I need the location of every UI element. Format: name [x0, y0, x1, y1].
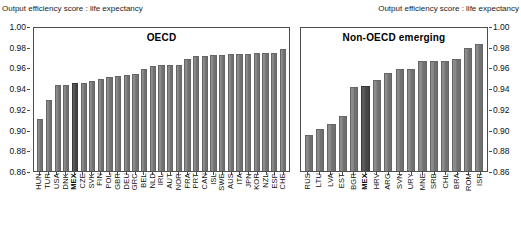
- y-tick-label: 0.94: [9, 85, 26, 93]
- x-axis-label-svn: SVN: [396, 173, 404, 189]
- bar-slot: [314, 28, 325, 171]
- bar-deu: [124, 75, 130, 171]
- y-tick-label: 0.90: [9, 127, 26, 135]
- panel-title-oecd: OECD: [34, 32, 289, 43]
- bar-est: [339, 116, 347, 171]
- bar-srb: [430, 61, 438, 171]
- bar-slot: [166, 28, 175, 171]
- x-axis-label-pol: POL: [105, 173, 113, 189]
- x-axis-label-arg: ARG: [384, 173, 392, 190]
- x-label-slot: CHL: [440, 173, 452, 233]
- x-axis-label-nor: NOR: [175, 173, 183, 190]
- x-axis-label-aus: AUS: [227, 173, 235, 189]
- x-axis-label-rom: ROM: [465, 173, 473, 191]
- x-label-slot: RUS: [302, 173, 314, 233]
- bar-hrv: [373, 80, 381, 171]
- y-tick-label: 0.90: [493, 127, 510, 135]
- x-label-slot: ROM: [463, 173, 475, 233]
- bar-ltu: [316, 129, 324, 172]
- x-label-slot: URY: [406, 173, 418, 233]
- x-axis-label-srb: SRB: [430, 173, 438, 189]
- bar-rus: [305, 135, 313, 171]
- x-label-slot: BGR: [348, 173, 360, 233]
- bar-slot: [88, 28, 97, 171]
- bar-slot: [417, 28, 428, 171]
- x-label-slot: CHE: [279, 173, 288, 233]
- x-label-slot: EST: [337, 173, 349, 233]
- y-tick-mark: [27, 131, 30, 132]
- y-tick-label: 0.94: [493, 85, 510, 93]
- bar-slot: [45, 28, 54, 171]
- bar-kor: [254, 53, 260, 171]
- y-tick-label: 0.88: [493, 147, 510, 155]
- x-label-slot: SRB: [429, 173, 441, 233]
- bar-esp: [271, 53, 277, 171]
- bar-lva: [327, 124, 335, 171]
- y-tick-label: 0.92: [9, 106, 26, 114]
- x-label-slot: ISR: [475, 173, 487, 233]
- bar-group-oecd: [34, 28, 289, 171]
- bar-slot: [183, 28, 192, 171]
- bar-che: [280, 49, 286, 171]
- bar-slot: [157, 28, 166, 171]
- x-axis-label-usa: USA: [53, 173, 61, 189]
- x-axis-label-rus: RUS: [304, 173, 312, 189]
- bar-hun: [37, 119, 43, 171]
- y-tick-mark: [27, 27, 30, 28]
- y-tick-label: 0.92: [493, 106, 510, 114]
- bar-svn: [396, 69, 404, 172]
- bar-mne: [418, 61, 426, 171]
- right-axis-title: Output efficiency score : life expectanc…: [378, 4, 519, 14]
- bar-slot: [261, 28, 270, 171]
- x-label-slot: GBR: [113, 173, 122, 233]
- bar-slot: [278, 28, 287, 171]
- bar-slot: [405, 28, 416, 171]
- y-tick-mark: [27, 172, 30, 173]
- bar-slot: [209, 28, 218, 171]
- y-tick-mark: [489, 89, 492, 90]
- y-tick-mark: [489, 151, 492, 152]
- bar-bel: [141, 69, 147, 172]
- y-tick-mark: [489, 131, 492, 132]
- bar-irl: [158, 65, 164, 171]
- x-axis-label-che: CHE: [279, 173, 287, 189]
- bar-slot: [235, 28, 244, 171]
- x-label-slot: NOR: [175, 173, 184, 233]
- bar-prt: [193, 56, 199, 171]
- bar-slot: [192, 28, 201, 171]
- bar-rom: [464, 48, 472, 171]
- bar-dnk: [63, 85, 69, 171]
- panel-oecd: OECD HUNTURUSADNKMEXCZESVKFINPOLGBRDEUGR…: [33, 27, 290, 172]
- bar-fra: [184, 59, 190, 171]
- y-tick-label: 0.98: [493, 44, 510, 52]
- x-axis-label-cze: CZE: [79, 173, 87, 189]
- bar-slot: [428, 28, 439, 171]
- x-axis-label-can: CAN: [201, 173, 209, 189]
- bar-fin: [98, 79, 104, 171]
- bar-bra: [452, 59, 460, 171]
- bar-slot: [123, 28, 132, 171]
- bar-slot: [36, 28, 45, 171]
- x-axis-label-bgr: BGR: [350, 173, 358, 190]
- bar-group-nonoecd: [301, 28, 487, 171]
- y-tick-label: 0.86: [493, 168, 510, 176]
- x-labels-oecd: HUNTURUSADNKMEXCZESVKFINPOLGBRDEUGRCBELN…: [33, 173, 290, 233]
- y-tick-label: 1.00: [9, 23, 26, 31]
- bar-slot: [97, 28, 106, 171]
- bar-slot: [175, 28, 184, 171]
- bar-slot: [114, 28, 123, 171]
- bar-tur: [46, 100, 52, 172]
- bar-slot: [226, 28, 235, 171]
- x-axis-label-isr: ISR: [476, 173, 484, 186]
- y-tick-label: 0.98: [9, 44, 26, 52]
- y-tick-mark: [27, 110, 30, 111]
- y-tick-mark: [27, 89, 30, 90]
- left-axis-title: Output efficiency score : life expectanc…: [2, 4, 143, 14]
- y-tick-mark: [27, 68, 30, 69]
- x-axis-label-ita: ITA: [236, 173, 244, 185]
- y-tick-mark: [489, 48, 492, 49]
- bar-ury: [407, 69, 415, 172]
- bar-mex: [72, 83, 78, 171]
- x-axis-label-tur: TUR: [44, 173, 52, 189]
- x-axis-label-gbr: GBR: [114, 173, 122, 190]
